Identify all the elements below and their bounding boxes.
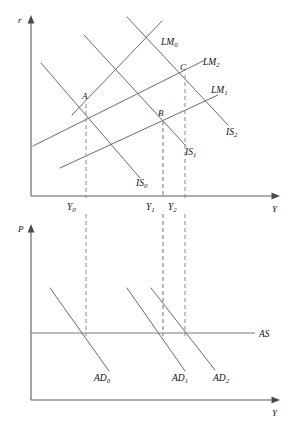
r-axis-label: r — [18, 15, 22, 25]
bottom-y-axis-arrow-icon — [272, 397, 281, 404]
lm1-label: LM1 — [210, 85, 228, 96]
point-c-label: C — [180, 62, 187, 72]
is-lm-panel: r Y LM0 LM2 LM1 IS0 IS1 IS2 A B C Y0 Y1 … — [18, 15, 280, 214]
lm0-label: LM0 — [160, 37, 178, 48]
bottom-y-axis-label: Y — [272, 408, 278, 418]
tick-y0-label: Y0 — [67, 202, 76, 213]
p-axis-label: P — [17, 224, 24, 234]
tick-y2-label: Y2 — [168, 202, 177, 213]
top-y-axis-label: Y — [272, 204, 278, 214]
lm2-label: LM2 — [202, 57, 220, 68]
ad-as-panel: P Y AS AD0 AD1 AD2 — [17, 214, 280, 418]
p-axis-arrow-icon — [28, 224, 35, 233]
top-y-axis-arrow-icon — [272, 193, 281, 200]
ad0-curve — [50, 288, 109, 371]
r-axis-arrow-icon — [28, 15, 35, 24]
tick-y1-label: Y1 — [146, 202, 155, 213]
as-label: AS — [258, 329, 270, 339]
ad1-label: AD1 — [171, 373, 188, 384]
is0-label: IS0 — [135, 178, 148, 189]
ad0-label: AD0 — [93, 373, 111, 384]
point-a-label: A — [81, 91, 88, 101]
is2-label: IS2 — [225, 127, 238, 138]
is1-curve — [84, 35, 186, 146]
point-b-label: B — [158, 108, 164, 118]
ad1-curve — [127, 288, 185, 371]
is1-label: IS1 — [184, 147, 196, 158]
ad2-label: AD2 — [212, 373, 230, 384]
ad2-curve — [151, 288, 215, 370]
economics-figure: r Y LM0 LM2 LM1 IS0 IS1 IS2 A B C Y0 Y1 … — [0, 0, 294, 433]
figure-canvas: r Y LM0 LM2 LM1 IS0 IS1 IS2 A B C Y0 Y1 … — [0, 0, 294, 433]
is2-curve — [127, 17, 228, 125]
